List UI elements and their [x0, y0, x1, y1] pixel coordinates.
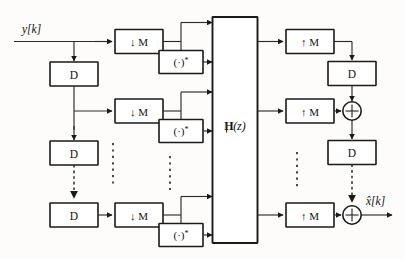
input-label: y[k] [21, 23, 41, 36]
output-label: x̂[k] [365, 195, 385, 207]
delay-label-1: D [70, 148, 78, 160]
interpolator-label-1: ↑ M [301, 106, 319, 118]
synthesis-delay-label-1: D [348, 147, 356, 159]
matrix-block-label: H(z) [224, 119, 246, 133]
interpolator-label-last: ↑ M [301, 210, 319, 222]
delay-label-0: D [70, 69, 78, 81]
block-diagram: y[k] D D D ↓ M ↓ M ↓ M (·)* (·)* [0, 0, 405, 259]
delay-label-last: D [70, 210, 78, 222]
synthesis-delay-label-0: D [348, 68, 356, 80]
decimator-label-last: ↓ M [130, 210, 148, 222]
decimator-label-1: ↓ M [130, 106, 148, 118]
interpolator-label-0: ↑ M [301, 36, 319, 48]
figure-canvas: y[k] D D D ↓ M ↓ M ↓ M (·)* (·)* [0, 0, 405, 259]
decimator-label-0: ↓ M [130, 36, 148, 48]
